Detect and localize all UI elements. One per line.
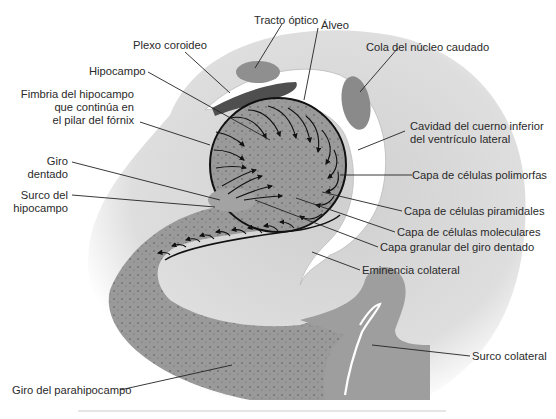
label-surco-colateral: Surco colateral <box>472 350 547 363</box>
label-cavidad-cuerno-inferior: Cavidad del cuerno inferior del ventrícu… <box>410 120 544 146</box>
label-capa-granular: Capa granular del giro dentado <box>380 241 534 254</box>
optic-tract <box>236 61 280 83</box>
label-alveo: Álveo <box>321 19 349 32</box>
hippocampus-diagram: Tracto óptico Álveo Plexo coroideo Cola … <box>0 0 556 419</box>
label-capa-piramidales: Capa de células piramidales <box>404 205 545 218</box>
label-hipocampo: Hipocampo <box>89 65 146 78</box>
label-cola-nucleo-caudado: Cola del núcleo caudado <box>366 41 489 54</box>
label-giro-dentado: Giro dentado <box>0 155 68 181</box>
label-tracto-optico: Tracto óptico <box>254 14 318 27</box>
label-capa-polimorfas: Capa de células polimorfas <box>412 169 547 182</box>
label-plexo-coroideo: Plexo coroideo <box>133 39 207 52</box>
label-surco-hipocampo: Surco del hipocampo <box>0 189 68 215</box>
label-giro-parahipocampo: Giro del parahipocampo <box>12 384 131 397</box>
label-eminencia-colateral: Eminencia colateral <box>362 264 460 277</box>
label-capa-moleculares: Capa de células moleculares <box>397 226 541 239</box>
label-fimbria: Fimbria del hipocampo que continúa en el… <box>0 88 134 127</box>
